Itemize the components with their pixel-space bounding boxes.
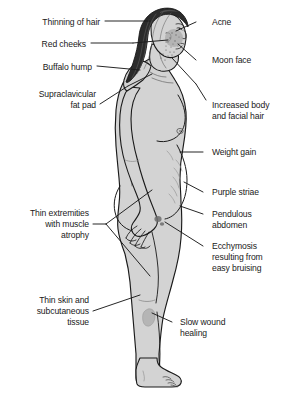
- nipple-center: [179, 130, 181, 132]
- label-slow-wound-healing: Slow wound healing: [180, 317, 260, 339]
- label-weight-gain: Weight gain: [212, 147, 286, 158]
- label-thin-extremities-with-muscle-atrophy: Thin extremities with muscle atrophy: [4, 208, 89, 242]
- leader-increased-hair: [196, 84, 206, 100]
- label-increased-body-and-facial-hair: Increased body and facial hair: [212, 100, 288, 122]
- label-buffalo-hump: Buffalo hump: [6, 62, 92, 73]
- label-purple-striae: Purple striae: [212, 187, 286, 198]
- label-thin-skin-and-subcutaneous-tissue: Thin skin and subcutaneous tissue: [4, 295, 89, 329]
- label-thinning-of-hair: Thinning of hair: [6, 17, 100, 28]
- label-moon-face: Moon face: [212, 55, 286, 66]
- leader-pendulous-abdomen: [180, 206, 203, 214]
- label-red-cheeks: Red cheeks: [6, 39, 86, 50]
- moon-face-cheek-shading: [165, 29, 183, 47]
- label-pendulous-abdomen: Pendulous abdomen: [212, 209, 286, 231]
- label-supraclavicular-fat-pad: Supraclavicular fat pad: [6, 89, 96, 111]
- cushing-syndrome-illustration: Thinning of hair Red cheeks Buffalo hump…: [0, 0, 290, 401]
- body-silhouette: [114, 8, 188, 387]
- label-acne: Acne: [212, 17, 286, 28]
- label-ecchymosis-resulting-from-easy-bruising: Ecchymosis resulting from easy bruising: [212, 241, 288, 275]
